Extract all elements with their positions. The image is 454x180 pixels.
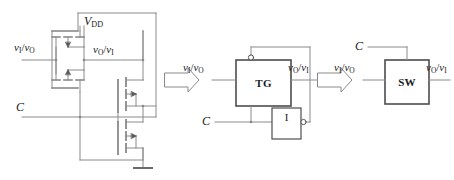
sw-control-wire [368, 47, 407, 60]
tg-output-label: vO/vI [288, 62, 309, 74]
sw-output-label: vO/vI [426, 62, 447, 74]
vdd-label: VDD [84, 15, 103, 29]
circuit-figure: VDD vI/vO vO/vI C TG I vI/vO vO/vI C SW … [0, 0, 454, 180]
sw-control-label: C [355, 40, 363, 52]
tg-input-label: vI/vO [183, 62, 204, 74]
sw-input-label: vI/vO [334, 62, 355, 74]
pmos-top-symbol [52, 26, 84, 60]
tg-block-label: TG [236, 60, 291, 106]
nmos-upper-symbol [118, 78, 156, 112]
inverter-block-label: I [272, 108, 301, 139]
tg-control-label: C [202, 115, 210, 127]
transistor-output-label: vO/vI [93, 44, 114, 56]
transistor-input-label: vI/vO [14, 42, 35, 54]
nmos-lower-symbol [118, 120, 143, 154]
transistor-control-label: C [16, 101, 24, 113]
sw-block-label: SW [385, 60, 429, 104]
inverter-output-bubble [301, 119, 306, 124]
junction-dots-block [250, 121, 253, 124]
pmos-bottom-symbol [52, 60, 84, 92]
bottom-feedback-wire [80, 117, 143, 160]
